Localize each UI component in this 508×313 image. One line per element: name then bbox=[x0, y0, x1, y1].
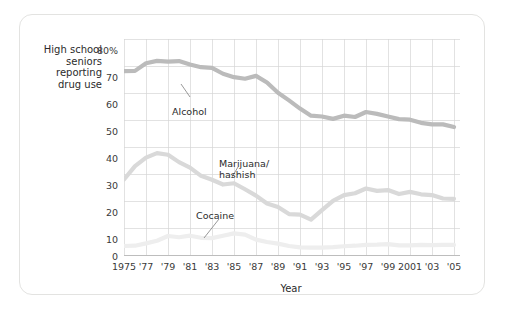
series-line-marijuana bbox=[124, 153, 454, 219]
y-tick-label: 40 bbox=[82, 153, 118, 164]
y-tick-label: 30 bbox=[82, 180, 118, 191]
y-tick-label: 70 bbox=[82, 72, 118, 83]
y-tick-label: 20 bbox=[82, 207, 118, 218]
chart-svg bbox=[124, 39, 460, 256]
annotation-marijuana-line-1: Marijuana/ bbox=[219, 158, 269, 169]
y-tick-label: 80% bbox=[82, 45, 118, 56]
y-tick-label: 10 bbox=[82, 234, 118, 245]
grid-lines bbox=[124, 39, 460, 256]
data-series-group bbox=[124, 61, 454, 248]
x-tick-label: '05 bbox=[434, 261, 474, 272]
y-tick-label: 50 bbox=[82, 126, 118, 137]
annotation-cocaine: Cocaine bbox=[196, 210, 234, 221]
annotation-marijuana-line-2: hashish bbox=[219, 169, 269, 180]
x-axis-title: Year bbox=[261, 283, 321, 294]
plot-area bbox=[124, 39, 460, 256]
annotation-alcohol: Alcohol bbox=[172, 106, 207, 117]
chart-screenshot: High school seniors reporting drug use 8… bbox=[0, 0, 508, 313]
y-cap-2: seniors bbox=[66, 56, 102, 67]
series-line-alcohol bbox=[124, 61, 454, 127]
leader-line-alcohol bbox=[181, 84, 190, 97]
series-line-cocaine bbox=[124, 233, 454, 247]
y-tick-label: 60 bbox=[82, 99, 118, 110]
annotation-marijuana: Marijuana/ hashish bbox=[219, 158, 269, 180]
